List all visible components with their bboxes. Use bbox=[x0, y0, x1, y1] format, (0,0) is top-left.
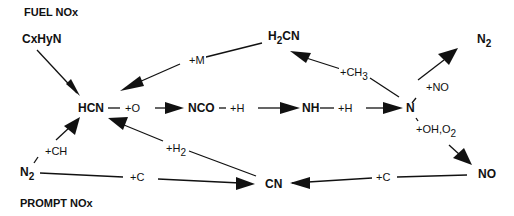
label-plus-o: +O bbox=[124, 103, 141, 114]
node-hcn: HCN bbox=[78, 102, 104, 114]
label-plus-ch3: +CH3 bbox=[339, 67, 369, 78]
label-plus-ch: +CH bbox=[44, 146, 68, 157]
ch3-sub: 3 bbox=[362, 71, 368, 82]
node-n2-bottom: N2 bbox=[20, 166, 34, 178]
oh-o2-sub: 2 bbox=[451, 128, 457, 139]
node-cn: CN bbox=[265, 178, 282, 190]
label-plus-c-right: +C bbox=[375, 172, 391, 183]
node-nh: NH bbox=[302, 102, 319, 114]
label-plus-oh-o2: +OH,O2 bbox=[415, 124, 457, 135]
node-n: N bbox=[406, 102, 415, 114]
n2-top-sub: 2 bbox=[486, 38, 492, 49]
n2-bot-n: N bbox=[20, 165, 29, 179]
node-h2cn: H2CN bbox=[268, 30, 300, 42]
node-nco: NCO bbox=[188, 102, 215, 114]
h2-sub: 2 bbox=[180, 147, 186, 158]
label-plus-h-2: +H bbox=[337, 103, 353, 114]
label-plus-h-1: +H bbox=[229, 103, 245, 114]
n2-top-n: N bbox=[477, 32, 486, 46]
n2-bot-sub: 2 bbox=[29, 171, 35, 182]
prompt-nox-heading: PROMPT NOx bbox=[20, 198, 93, 209]
h2cn-cn: CN bbox=[282, 29, 299, 43]
fuel-nox-heading: FUEL NOx bbox=[24, 7, 78, 18]
h2-main: +H bbox=[166, 142, 180, 154]
label-plus-m: +M bbox=[188, 55, 206, 66]
h2cn-h: H bbox=[268, 29, 277, 43]
label-plus-c-left: +C bbox=[129, 172, 145, 183]
ch3-main: +CH bbox=[340, 66, 362, 78]
node-n2-top: N2 bbox=[477, 33, 491, 45]
label-plus-no: +NO bbox=[425, 82, 450, 93]
node-cxhyn: CxHyN bbox=[22, 33, 61, 45]
label-plus-h2: +H2 bbox=[165, 143, 187, 154]
oh-o2-main: +OH,O bbox=[416, 123, 451, 135]
node-no: NO bbox=[478, 168, 496, 180]
